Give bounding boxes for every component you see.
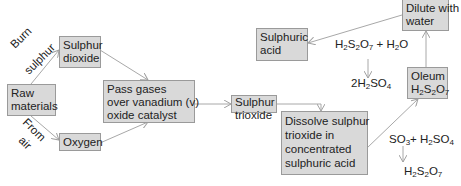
node-text: trioxide in bbox=[285, 128, 364, 142]
node-text: Oxygen bbox=[63, 136, 97, 149]
node-raw-materials: Raw materials bbox=[7, 84, 56, 116]
node-dissolve: Dissolve sulphur trioxide in concentrate… bbox=[281, 111, 368, 175]
arrows-layer bbox=[0, 0, 461, 186]
node-text: Sulphur bbox=[63, 39, 97, 52]
node-text: acid bbox=[260, 44, 304, 57]
arrow-oxygen-to-catalyst bbox=[100, 122, 148, 143]
node-dilute-with-water: Dilute with water bbox=[402, 0, 449, 31]
node-text: Dissolve sulphur bbox=[285, 114, 364, 128]
node-text: Sulphur bbox=[235, 96, 273, 109]
equation-2-reactants: H2S2O7 + H2O bbox=[335, 38, 408, 51]
node-text: Dilute with bbox=[406, 2, 445, 15]
node-text: concentrated bbox=[285, 142, 364, 156]
equation-1-product: H2S2O7 bbox=[404, 165, 442, 178]
node-sulphur-dioxide: Sulphur dioxide bbox=[59, 36, 101, 68]
equation-1-reactants: SO3+ H2SO4 bbox=[389, 133, 454, 146]
node-text: sulphuric acid bbox=[285, 156, 364, 170]
node-sulphur-trioxide: Sulphur trioxide bbox=[231, 95, 277, 113]
node-oleum: Oleum H2S2O7 bbox=[407, 67, 448, 99]
node-text: Pass gases bbox=[107, 83, 191, 96]
node-text: water bbox=[406, 15, 445, 28]
node-text: oxide catalyst bbox=[107, 109, 191, 122]
arrow-so3-to-dissolve bbox=[276, 104, 321, 111]
node-text: Oleum bbox=[411, 70, 444, 83]
contact-process-diagram: Raw materials Sulphur dioxide Oxygen Pas… bbox=[0, 0, 461, 186]
oleum-formula: H2S2O7 bbox=[411, 83, 444, 96]
arrow-so2-to-catalyst bbox=[100, 50, 148, 80]
node-text: over vanadium (v) bbox=[107, 96, 191, 109]
node-catalyst: Pass gases over vanadium (v) oxide catal… bbox=[103, 80, 195, 123]
equation-2-product: 2H2SO4 bbox=[351, 77, 391, 90]
node-text: Sulphuric bbox=[260, 31, 304, 44]
node-sulphuric-acid: Sulphuric acid bbox=[256, 28, 308, 61]
node-text: dioxide bbox=[63, 52, 97, 65]
node-oxygen: Oxygen bbox=[59, 133, 101, 151]
node-text: trioxide bbox=[235, 109, 273, 122]
node-text: materials bbox=[11, 100, 52, 113]
node-text: Raw bbox=[11, 87, 52, 100]
